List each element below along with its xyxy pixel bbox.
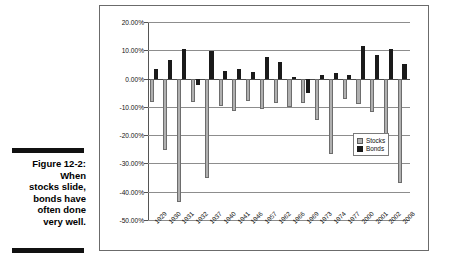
- bar-group: [327, 22, 341, 220]
- bar-stocks: [301, 79, 305, 103]
- caption-rule-bottom: [12, 248, 84, 253]
- bar-group: [272, 22, 286, 220]
- bar-group: [286, 22, 300, 220]
- bar-stocks: [246, 79, 250, 102]
- x-axis-labels: 1929193019311932193719401941194619571962…: [148, 220, 410, 256]
- bar-group: [203, 22, 217, 220]
- bar-stocks: [205, 79, 209, 178]
- bar-stocks: [232, 79, 236, 112]
- legend-label-bonds: Bonds: [366, 145, 384, 152]
- bar-group: [313, 22, 327, 220]
- caption-line-3: bonds have: [0, 193, 86, 205]
- caption-line-5: very well.: [0, 216, 86, 228]
- bar-bonds: [334, 73, 338, 79]
- bar-bonds: [265, 57, 269, 78]
- bar-bonds: [196, 79, 200, 86]
- bar-bonds: [347, 75, 351, 79]
- legend-swatch-bonds-icon: [357, 146, 363, 152]
- bar-stocks: [370, 79, 374, 113]
- bar-stocks: [163, 79, 167, 150]
- bar-group: [189, 22, 203, 220]
- bar-stocks: [274, 79, 278, 104]
- bar-group: [176, 22, 190, 220]
- bar-group: [258, 22, 272, 220]
- bar-bonds: [209, 51, 213, 78]
- caption-line-4: often done: [0, 204, 86, 216]
- bar-stocks: [329, 79, 333, 154]
- figure-number: Figure 12-2:: [0, 158, 86, 170]
- bar-bonds: [154, 69, 158, 79]
- bar-bonds: [251, 72, 255, 79]
- legend-swatch-stocks-icon: [357, 138, 363, 144]
- chart-legend: Stocks Bonds: [353, 133, 389, 156]
- bar-group: [148, 22, 162, 220]
- bar-bonds: [278, 62, 282, 79]
- bar-group: [396, 22, 410, 220]
- caption-rule-top: [12, 148, 84, 153]
- chart-plot-area: [148, 22, 410, 220]
- y-axis-tick-label: 20.00%: [100, 19, 144, 26]
- y-axis-tick-label: -40.00%: [100, 188, 144, 195]
- bar-bonds: [361, 46, 365, 79]
- bar-stocks: [356, 79, 360, 105]
- figure-caption-text: Figure 12-2: When stocks slide, bonds ha…: [0, 158, 86, 228]
- legend-label-stocks: Stocks: [366, 137, 385, 144]
- bar-group: [369, 22, 383, 220]
- bar-stocks: [150, 79, 154, 102]
- bar-bonds: [223, 71, 227, 79]
- caption-line-2: stocks slide,: [0, 181, 86, 193]
- chart-plot-wrapper: 20.00%10.00%0.00%-10.00%-20.00%-30.00%-4…: [100, 6, 428, 250]
- bar-stocks: [398, 79, 402, 184]
- bar-bonds: [292, 77, 296, 79]
- legend-item-stocks: Stocks: [357, 137, 385, 144]
- figure-caption-block: Figure 12-2: When stocks slide, bonds ha…: [0, 0, 92, 266]
- bar-bonds: [237, 69, 241, 78]
- bar-stocks: [343, 79, 347, 99]
- bar-stocks: [260, 79, 264, 110]
- bar-group: [355, 22, 369, 220]
- bar-bonds: [320, 75, 324, 78]
- y-axis-tick-label: -50.00%: [100, 217, 144, 224]
- bar-group: [382, 22, 396, 220]
- y-axis-tick-label: -30.00%: [100, 160, 144, 167]
- bar-bonds: [402, 64, 406, 79]
- y-axis-tick-label: 10.00%: [100, 47, 144, 54]
- bar-stocks: [177, 79, 181, 202]
- bar-group: [231, 22, 245, 220]
- y-axis-tick-label: -10.00%: [100, 103, 144, 110]
- bar-stocks: [191, 79, 195, 103]
- legend-item-bonds: Bonds: [357, 145, 385, 152]
- bar-group: [162, 22, 176, 220]
- bar-group: [341, 22, 355, 220]
- bar-bonds: [375, 55, 379, 79]
- bar-group: [245, 22, 259, 220]
- bar-stocks: [384, 79, 388, 142]
- bar-bonds: [389, 49, 393, 78]
- caption-line-1: When: [0, 170, 86, 182]
- bar-group: [300, 22, 314, 220]
- bar-bonds: [168, 60, 172, 79]
- chart-figure-frame: 20.00%10.00%0.00%-10.00%-20.00%-30.00%-4…: [99, 5, 429, 251]
- bar-bonds: [306, 79, 310, 93]
- bar-group: [217, 22, 231, 220]
- bar-stocks: [315, 79, 319, 121]
- bar-stocks: [219, 79, 223, 107]
- y-axis-tick-label: -20.00%: [100, 132, 144, 139]
- y-axis-tick-label: 0.00%: [100, 75, 144, 82]
- bar-stocks: [287, 79, 291, 108]
- bar-bonds: [182, 49, 186, 78]
